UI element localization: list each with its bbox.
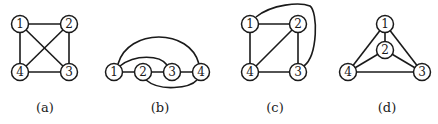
caption-a: (a): [36, 100, 54, 115]
panel-a: 1 2 3 4 (a): [12, 16, 78, 116]
node-1: 1: [12, 16, 29, 33]
svg-text:2: 2: [139, 65, 147, 79]
node-1: 1: [242, 16, 259, 33]
svg-text:1: 1: [16, 17, 24, 31]
svg-text:3: 3: [294, 65, 302, 79]
panel-d: 1 2 3 4 (d): [340, 16, 431, 116]
node-2: 2: [290, 16, 307, 33]
svg-text:2: 2: [65, 17, 73, 31]
node-2: 2: [377, 42, 394, 59]
node-1: 1: [377, 16, 394, 33]
node-3: 3: [61, 64, 78, 81]
svg-text:4: 4: [197, 65, 205, 79]
svg-text:3: 3: [418, 65, 426, 79]
node-3: 3: [414, 64, 431, 81]
svg-text:4: 4: [16, 65, 24, 79]
node-1: 1: [106, 64, 123, 81]
svg-text:3: 3: [168, 65, 176, 79]
graph-figure: 1 2 3 4 (a) 1 2 3 4 (b) 1 2 3 4 (c): [0, 0, 438, 124]
svg-text:4: 4: [344, 65, 352, 79]
svg-text:1: 1: [381, 17, 389, 31]
node-3: 3: [164, 64, 181, 81]
panel-b: 1 2 3 4 (b): [106, 37, 210, 115]
node-3: 3: [290, 64, 307, 81]
svg-text:2: 2: [294, 17, 302, 31]
caption-b: (b): [151, 100, 169, 115]
svg-text:1: 1: [246, 17, 254, 31]
svg-text:4: 4: [246, 65, 254, 79]
node-2: 2: [61, 16, 78, 33]
node-4: 4: [340, 64, 357, 81]
node-2: 2: [135, 64, 152, 81]
svg-text:3: 3: [65, 65, 73, 79]
svg-text:1: 1: [110, 65, 118, 79]
edge-2-4: [250, 24, 298, 72]
node-4: 4: [193, 64, 210, 81]
caption-d: (d): [378, 100, 396, 115]
node-4: 4: [242, 64, 259, 81]
panel-c: 1 2 3 4 (c): [242, 4, 316, 115]
svg-text:2: 2: [381, 43, 389, 57]
node-4: 4: [12, 64, 29, 81]
caption-c: (c): [266, 100, 283, 115]
